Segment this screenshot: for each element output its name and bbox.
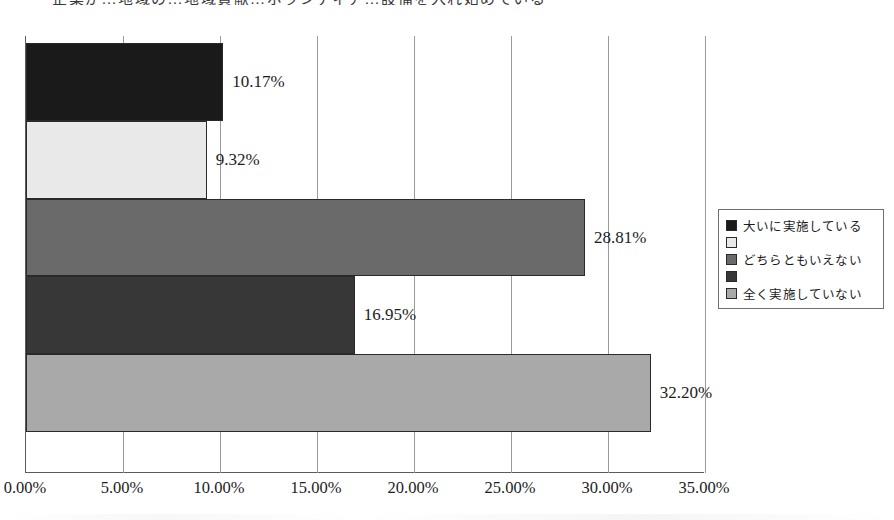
bar-value-label: 10.17%: [232, 73, 284, 90]
legend-swatch-icon: [726, 220, 737, 231]
bars-layer: 10.17%9.32%28.81%16.95%32.20%: [26, 36, 705, 473]
x-tick-label: 5.00%: [101, 478, 144, 498]
plot-area: 10.17%9.32%28.81%16.95%32.20%: [25, 36, 704, 473]
chart-title-clipped: 企業が…地域の…地域貢献…ボランティア…設備を入れ始めている: [0, 0, 894, 5]
legend-item-label: どちらともいえない: [743, 250, 862, 269]
x-axis-tick-labels: 0.00%5.00%10.00%15.00%20.00%25.00%30.00%…: [0, 478, 894, 504]
bar: [26, 121, 207, 199]
bar: [26, 199, 585, 277]
bar-value-label: 32.20%: [660, 384, 712, 401]
legend-item-label: 全く実施していない: [743, 284, 862, 303]
legend-item-label: 大いに実施している: [743, 216, 862, 235]
x-tick-label: 35.00%: [679, 478, 730, 498]
bar: [26, 43, 223, 121]
legend-item[interactable]: どちらともいえない: [726, 251, 875, 267]
legend-swatch-icon: [726, 237, 737, 248]
x-tick-label: 10.00%: [194, 478, 245, 498]
x-tick-label: 20.00%: [388, 478, 439, 498]
legend-item[interactable]: [726, 268, 875, 284]
legend-swatch-icon: [726, 254, 737, 265]
bar-value-label: 16.95%: [364, 306, 416, 323]
bar: [26, 354, 651, 432]
bar-value-label: 9.32%: [216, 151, 260, 168]
gridline: [705, 36, 706, 473]
legend-item[interactable]: 大いに実施している: [726, 217, 875, 233]
legend-swatch-icon: [726, 288, 737, 299]
legend-item[interactable]: 全く実施していない: [726, 285, 875, 301]
chart-title: 企業が…地域の…地域貢献…ボランティア…設備を入れ始めている: [52, 0, 546, 5]
x-tick-label: 25.00%: [485, 478, 536, 498]
bar-value-label: 28.81%: [594, 229, 646, 246]
legend-swatch-icon: [726, 271, 737, 282]
bar: [26, 276, 355, 354]
bar-chart: 企業が…地域の…地域貢献…ボランティア…設備を入れ始めている 10.17%9.3…: [0, 0, 894, 520]
x-tick-label: 0.00%: [4, 478, 47, 498]
x-tick-label: 30.00%: [582, 478, 633, 498]
x-tick-label: 15.00%: [291, 478, 342, 498]
scan-artifact: [0, 514, 894, 520]
legend-item[interactable]: [726, 234, 875, 250]
legend: 大いに実施しているどちらともいえない全く実施していない: [718, 209, 884, 309]
